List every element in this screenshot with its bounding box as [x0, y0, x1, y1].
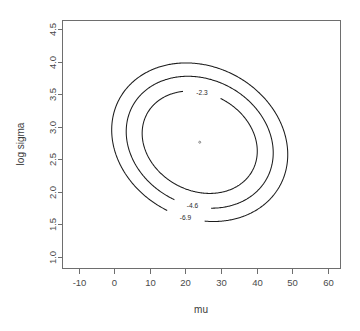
contour-label: -2.3 — [196, 89, 208, 96]
y-tick-label: 1.0 — [47, 251, 58, 264]
x-tick-label: 30 — [216, 277, 227, 288]
y-tick-label: 2.0 — [47, 186, 58, 199]
y-tick-label: 4.0 — [47, 56, 58, 69]
x-axis-title: mu — [194, 304, 208, 315]
maximum-point-marker — [199, 141, 201, 143]
y-tick-label: 3.5 — [47, 88, 58, 101]
x-tick-label: 40 — [252, 277, 263, 288]
x-tick-label: 60 — [323, 277, 334, 288]
x-tick-label: -10 — [73, 277, 87, 288]
y-tick-label: 2.5 — [47, 153, 58, 166]
y-tick-label: 1.5 — [47, 218, 58, 231]
x-axis-ticks — [80, 269, 329, 274]
contour-lines — [112, 63, 288, 222]
contour-plot-figure: -100102030405060 1.01.52.02.53.03.54.04.… — [0, 0, 360, 331]
y-tick-label: 3.0 — [47, 121, 58, 134]
x-axis-tick-labels: -100102030405060 — [73, 277, 334, 288]
x-tick-label: 20 — [180, 277, 191, 288]
contour-path — [126, 76, 273, 208]
contour-label: -6.9 — [180, 214, 192, 221]
plot-box-frame — [63, 21, 341, 269]
contour-level-labels: -2.3-4.6-6.9 — [180, 89, 208, 221]
y-axis-title: log sigma — [15, 122, 26, 165]
x-tick-label: 50 — [287, 277, 298, 288]
y-axis-tick-labels: 1.01.52.02.53.03.54.04.5 — [47, 23, 58, 264]
plot-canvas: -100102030405060 1.01.52.02.53.03.54.04.… — [0, 0, 360, 331]
x-tick-label: 0 — [112, 277, 117, 288]
y-tick-label: 4.5 — [47, 23, 58, 36]
contour-label: -4.6 — [187, 202, 199, 209]
y-axis-ticks — [58, 30, 63, 258]
x-tick-label: 10 — [145, 277, 156, 288]
contour-path — [142, 91, 257, 193]
contour-path — [112, 63, 288, 222]
